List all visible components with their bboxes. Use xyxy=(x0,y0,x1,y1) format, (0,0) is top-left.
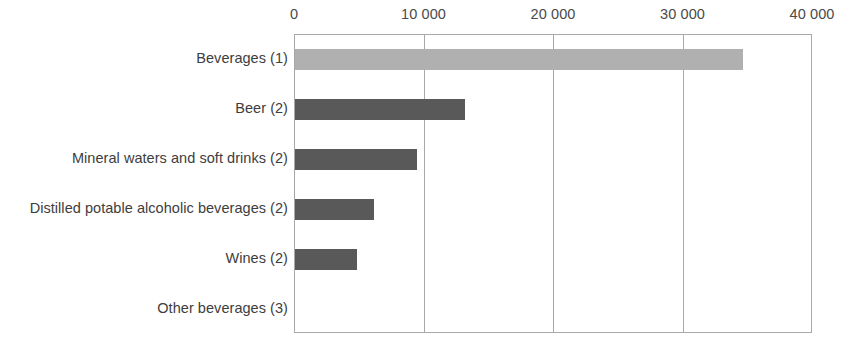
category-label-beer: Beer (2) xyxy=(0,100,288,117)
x-axis-tick-0: 0 xyxy=(290,6,298,22)
x-axis-tick-1: 10 000 xyxy=(401,6,446,22)
bar-chart: 0 10 000 20 000 30 000 40 000 Beverages … xyxy=(0,0,842,350)
bar-wines xyxy=(295,249,357,270)
x-axis-tick-3: 30 000 xyxy=(660,6,705,22)
category-labels: Beverages (1) Beer (2) Mineral waters an… xyxy=(0,34,288,333)
bar-beer xyxy=(295,99,465,120)
bar-mineral-waters-and-soft-drinks xyxy=(295,149,417,170)
gridline-30000 xyxy=(683,35,684,332)
category-label-other-beverages: Other beverages (3) xyxy=(0,300,288,317)
x-axis-tick-labels: 0 10 000 20 000 30 000 40 000 xyxy=(0,0,842,34)
x-axis-tick-2: 20 000 xyxy=(531,6,576,22)
plot-area xyxy=(294,34,812,333)
gridline-10000 xyxy=(424,35,425,332)
category-label-distilled-potable-alcoholic-beverages: Distilled potable alcoholic beverages (2… xyxy=(0,200,288,217)
gridline-20000 xyxy=(553,35,554,332)
category-label-mineral-waters-and-soft-drinks: Mineral waters and soft drinks (2) xyxy=(0,150,288,167)
category-label-beverages: Beverages (1) xyxy=(0,50,288,67)
category-label-wines: Wines (2) xyxy=(0,250,288,267)
bar-distilled-potable-alcoholic-beverages xyxy=(295,199,374,220)
x-axis-tick-4: 40 000 xyxy=(790,6,835,22)
bar-beverages xyxy=(295,49,743,70)
